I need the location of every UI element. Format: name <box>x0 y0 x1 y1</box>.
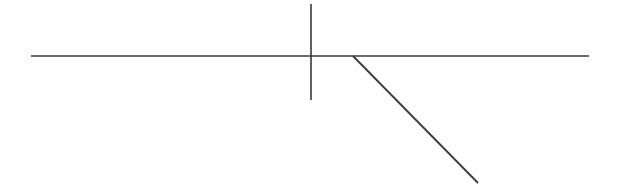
drawing-canvas <box>0 0 623 187</box>
line-figure <box>0 0 623 187</box>
